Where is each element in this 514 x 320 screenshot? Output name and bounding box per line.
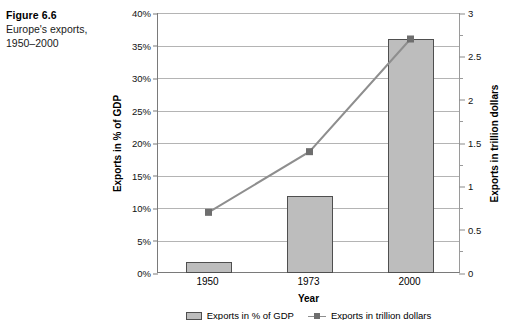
x-axis-tick-label: 1973	[297, 276, 319, 287]
y-axis-left-tick-label: 30%	[132, 73, 158, 84]
y-axis-left-tick-label: 20%	[132, 138, 158, 149]
y-axis-left-tick-label: 10%	[132, 203, 158, 214]
y-axis-left-title-text: Exports in % of GDP	[113, 94, 124, 191]
y-axis-right-tick-label: 2	[459, 94, 473, 105]
figure-number: Figure 6.6	[6, 8, 114, 22]
y-axis-right-minor-tick	[459, 78, 463, 79]
y-axis-left-title: Exports in % of GDP	[110, 13, 126, 273]
legend-entry: Exports in trillion dollars	[308, 311, 431, 320]
y-axis-right-minor-tick	[459, 121, 463, 122]
figure-caption: Figure 6.6 Europe's exports, 1950–2000	[6, 8, 114, 50]
line-marker	[205, 209, 212, 216]
bar	[388, 39, 434, 273]
y-axis-left-tick-label: 15%	[132, 170, 158, 181]
y-axis-right-minor-tick	[459, 251, 463, 252]
y-axis-right-tick-label: 3	[459, 8, 473, 19]
y-axis-right-tick-label: 1.5	[459, 138, 481, 149]
legend-entry: Exports in % of GDP	[186, 311, 294, 320]
line-path	[209, 39, 411, 212]
y-axis-left-tick-label: 5%	[137, 235, 158, 246]
bar	[287, 196, 333, 273]
y-axis-left-tick-label: 40%	[132, 8, 158, 19]
legend-bar-swatch	[186, 312, 202, 320]
legend-line-swatch	[308, 312, 326, 320]
chart-legend: Exports in % of GDPExports in trillion d…	[157, 311, 460, 320]
y-axis-left-tick-label: 35%	[132, 40, 158, 51]
legend-label: Exports in % of GDP	[207, 311, 294, 320]
plot-area: 0%5%10%15%20%25%30%35%40% 00.511.522.53	[157, 13, 460, 273]
gridline	[158, 13, 459, 14]
y-axis-left-tick-label: 0%	[137, 268, 158, 279]
x-axis-title: Year	[157, 293, 460, 304]
y-axis-right-minor-tick	[459, 165, 463, 166]
line-marker	[306, 148, 313, 155]
y-axis-right-tick-label: 0.5	[459, 224, 481, 235]
y-axis-right-minor-tick	[459, 35, 463, 36]
y-axis-left-tick-label: 25%	[132, 105, 158, 116]
figure-description-line2: 1950–2000	[6, 36, 114, 50]
x-axis-tick-label: 1950	[196, 276, 218, 287]
y-axis-right-tick-label: 0	[459, 268, 473, 279]
figure-description-line1: Europe's exports,	[6, 22, 114, 36]
y-axis-right-title: Exports in trillion dollars	[487, 13, 503, 273]
legend-label: Exports in trillion dollars	[331, 311, 431, 320]
y-axis-right-tick-label: 2.5	[459, 51, 481, 62]
y-axis-right-tick-label: 1	[459, 181, 473, 192]
x-axis-tick-label: 2000	[398, 276, 420, 287]
y-axis-right-title-text: Exports in trillion dollars	[490, 84, 501, 202]
y-axis-right-minor-tick	[459, 208, 463, 209]
bar	[186, 262, 232, 273]
